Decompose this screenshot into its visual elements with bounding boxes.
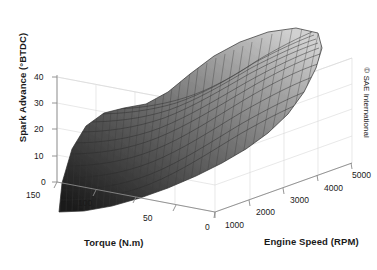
torque-tick-150: 150 [26,190,40,200]
rpm-tick-3000: 3000 [290,195,309,205]
spark-advance-axis-label: Spark Advance (°BTDC) [17,33,28,143]
copyright-notice: © SAE International [362,53,371,153]
torque-tick-100: 100 [78,198,92,208]
ytick-40: 40 [34,72,43,82]
torque-tick-0: 0 [205,222,210,232]
plot-canvas [0,0,377,270]
surface-mesh [59,28,322,212]
rpm-tick-1000: 1000 [225,220,244,230]
figure-3d-surface-plot: 40 30 20 10 0 150 100 50 0 1000 2000 300… [0,0,377,270]
torque-axis-label: Torque (N.m) [84,237,144,248]
ytick-10: 10 [34,151,43,161]
engine-speed-axis-label: Engine Speed (RPM) [264,236,359,247]
ytick-30: 30 [34,98,43,108]
rpm-tick-5000: 5000 [352,170,371,180]
ytick-0: 0 [41,177,46,187]
torque-tick-50: 50 [143,213,152,223]
rpm-tick-2000: 2000 [256,207,275,217]
ytick-20: 20 [34,124,43,134]
rpm-tick-4000: 4000 [324,183,343,193]
